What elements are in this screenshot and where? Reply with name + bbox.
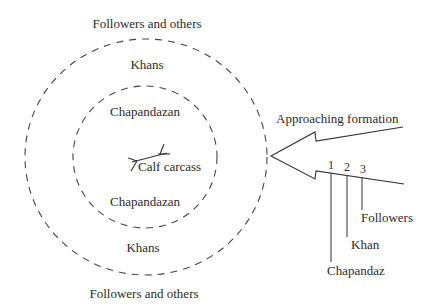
khans-zone-label-bottom: Khans	[126, 241, 159, 254]
outer-zone-label-top: Followers and others	[92, 17, 201, 30]
calf-carcass-label: Calf carcass	[138, 160, 201, 173]
khan-role-label: Khan	[351, 238, 379, 251]
formation-diagram	[0, 0, 436, 308]
approaching-formation-label: Approaching formation	[276, 112, 398, 125]
approaching-formation-arrow-icon	[271, 127, 404, 184]
position-2-number: 2	[344, 161, 350, 173]
chapandazan-zone-label-bottom: Chapandazan	[110, 195, 180, 208]
followers-role-label: Followers	[361, 211, 413, 224]
chapandaz-role-label: Chapandaz	[327, 264, 385, 277]
position-1-number: 1	[328, 159, 334, 171]
chapandazan-zone-label-top: Chapandazan	[110, 105, 180, 118]
khans-zone-label-top: Khans	[130, 58, 163, 71]
position-3-number: 3	[360, 163, 366, 175]
outer-zone-label-bottom: Followers and others	[89, 287, 198, 300]
